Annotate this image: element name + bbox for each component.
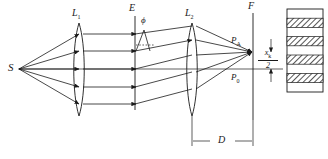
fringe-spacing-numerator: xk [258,49,278,59]
lens-2 [187,23,198,116]
label-plane-E: E [129,3,135,13]
label-point-P0: P0 [231,73,240,84]
fringe-spacing-denominator: 2 [258,62,278,70]
label-point-PA-subscript: A [237,41,241,47]
fringe-spacing-numerator-subscript: k [268,53,271,59]
label-angle-phi: ϕ [141,16,146,25]
figure-canvas: S L1 E ϕ L2 F PA P0 xk 2 D [0,0,328,159]
label-fringe-spacing: xk 2 [258,49,278,70]
label-lens-2-subscript: 2 [191,14,194,20]
label-lens-1: L1 [72,8,81,20]
ray-diagram-svg [0,0,328,159]
label-plane-F: F [248,1,254,11]
label-distance-D: D [218,135,225,145]
tilted-rays-E-to-L2 [135,26,192,104]
fringe-screen [287,9,323,92]
label-point-P0-subscript: 0 [237,78,240,84]
label-lens-2: L2 [185,8,194,20]
label-source-S: S [8,62,14,73]
parallel-rays-L1-to-E [83,34,136,104]
label-point-PA: PA [231,36,241,47]
converging-rays-L2-to-F [196,26,252,89]
source-rays [19,34,79,104]
label-lens-1-subscript: 1 [78,14,81,20]
